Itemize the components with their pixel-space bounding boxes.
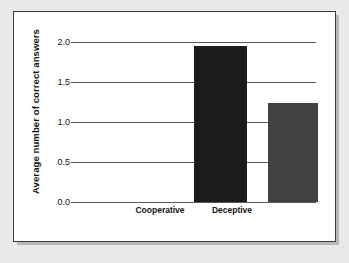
y-tick-label-0-5: 0.5 bbox=[46, 158, 70, 167]
bar-deceptive[interactable] bbox=[268, 103, 318, 202]
chart-figure: Average number of correct answers 2.0 1.… bbox=[13, 11, 336, 242]
bars-layer bbox=[75, 42, 316, 202]
y-tick-label-2-0: 2.0 bbox=[46, 38, 70, 47]
plot-area: Average number of correct answers 2.0 1.… bbox=[14, 12, 335, 241]
gridline-0-0 bbox=[75, 202, 316, 203]
bar-cooperative[interactable] bbox=[194, 46, 247, 202]
x-axis-label-cooperative: Cooperative bbox=[124, 205, 196, 215]
x-axis-label-deceptive: Deceptive bbox=[200, 205, 264, 215]
tick-dash-0-0 bbox=[71, 202, 76, 203]
y-tick-label-1-5: 1.5 bbox=[46, 78, 70, 87]
y-tick-label-0-0: 0.0 bbox=[46, 198, 70, 207]
y-tick-label-1-0: 1.0 bbox=[46, 118, 70, 127]
y-axis-title: Average number of correct answers bbox=[30, 27, 41, 197]
